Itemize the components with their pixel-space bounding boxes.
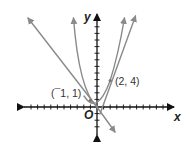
x-axis-label: x xyxy=(174,110,181,124)
point-label-neg1-1: (¯1, 1) xyxy=(51,87,81,99)
line-through-neg1-1-lower xyxy=(97,107,115,132)
line-through-2-4 xyxy=(100,16,136,114)
coordinate-plane xyxy=(0,0,190,148)
origin-label: O xyxy=(84,108,93,122)
point-label-2-4: (2, 4) xyxy=(115,75,140,87)
y-axis xyxy=(95,14,100,135)
y-axis-label: y xyxy=(84,10,91,24)
point-2-4 xyxy=(109,79,112,82)
parabola-wide xyxy=(84,18,125,103)
point-neg1-1 xyxy=(89,99,92,102)
